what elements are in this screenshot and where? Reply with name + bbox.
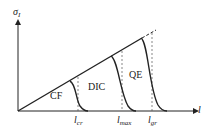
region-qe-label: QE [129,69,142,80]
y-axis-label: σI [13,6,20,19]
cf-curve [70,81,88,111]
region-cf-label: CF [50,90,62,101]
region-dic-label: DIC [88,81,105,92]
tick-lcr: lcr [74,114,83,127]
qe-curve [141,38,167,111]
boundary-line-dashed [142,30,156,38]
boundary-line [18,38,142,111]
tick-lmax: lmax [117,114,131,127]
diagram-canvas [0,0,213,131]
dic-curve [111,56,136,111]
tick-lgr: lgr [148,114,157,127]
x-axis-label: l [198,104,201,115]
